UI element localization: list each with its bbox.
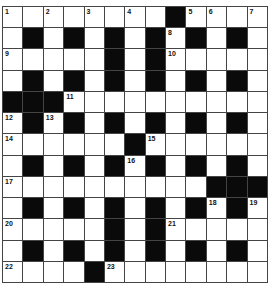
crossword-cell[interactable] — [105, 134, 124, 154]
crossword-cell[interactable] — [3, 198, 22, 218]
crossword-cell[interactable] — [125, 28, 144, 48]
crossword-cell[interactable] — [64, 219, 83, 239]
crossword-cell[interactable] — [207, 28, 226, 48]
crossword-cell[interactable] — [186, 219, 205, 239]
crossword-cell[interactable] — [44, 28, 63, 48]
crossword-cell[interactable]: 3 — [85, 7, 104, 27]
crossword-cell[interactable] — [248, 262, 267, 282]
crossword-cell[interactable] — [23, 262, 42, 282]
crossword-cell[interactable] — [105, 92, 124, 112]
crossword-cell[interactable]: 12 — [3, 113, 22, 133]
crossword-cell[interactable] — [105, 7, 124, 27]
crossword-cell[interactable]: 9 — [3, 49, 22, 69]
crossword-cell[interactable] — [207, 49, 226, 69]
crossword-cell[interactable] — [44, 71, 63, 91]
crossword-cell[interactable] — [44, 262, 63, 282]
crossword-cell[interactable] — [64, 49, 83, 69]
crossword-cell[interactable] — [125, 71, 144, 91]
crossword-cell[interactable] — [85, 198, 104, 218]
crossword-cell[interactable] — [248, 92, 267, 112]
crossword-cell[interactable] — [207, 262, 226, 282]
crossword-cell[interactable] — [166, 177, 185, 197]
crossword-cell[interactable] — [146, 177, 165, 197]
crossword-cell[interactable] — [186, 134, 205, 154]
crossword-cell[interactable]: 17 — [3, 177, 22, 197]
crossword-cell[interactable] — [23, 134, 42, 154]
crossword-cell[interactable] — [186, 262, 205, 282]
crossword-cell[interactable] — [166, 156, 185, 176]
crossword-cell[interactable] — [23, 177, 42, 197]
crossword-cell[interactable] — [44, 219, 63, 239]
crossword-cell[interactable] — [85, 134, 104, 154]
crossword-cell[interactable]: 7 — [248, 7, 267, 27]
crossword-cell[interactable] — [146, 92, 165, 112]
crossword-cell[interactable] — [44, 156, 63, 176]
crossword-cell[interactable] — [186, 177, 205, 197]
crossword-cell[interactable] — [125, 219, 144, 239]
crossword-cell[interactable] — [166, 198, 185, 218]
crossword-cell[interactable] — [248, 49, 267, 69]
crossword-cell[interactable]: 10 — [166, 49, 185, 69]
crossword-cell[interactable] — [85, 177, 104, 197]
crossword-cell[interactable]: 6 — [207, 7, 226, 27]
crossword-cell[interactable] — [227, 219, 246, 239]
crossword-cell[interactable] — [3, 156, 22, 176]
crossword-cell[interactable] — [44, 49, 63, 69]
crossword-cell[interactable]: 22 — [3, 262, 22, 282]
crossword-cell[interactable] — [85, 28, 104, 48]
crossword-cell[interactable] — [248, 219, 267, 239]
crossword-cell[interactable] — [166, 262, 185, 282]
crossword-cell[interactable] — [227, 92, 246, 112]
crossword-cell[interactable]: 23 — [105, 262, 124, 282]
crossword-cell[interactable] — [3, 28, 22, 48]
crossword-cell[interactable] — [166, 92, 185, 112]
crossword-cell[interactable] — [64, 7, 83, 27]
crossword-cell[interactable] — [146, 7, 165, 27]
crossword-cell[interactable]: 21 — [166, 219, 185, 239]
crossword-cell[interactable]: 8 — [166, 28, 185, 48]
crossword-cell[interactable] — [166, 71, 185, 91]
crossword-cell[interactable] — [44, 177, 63, 197]
crossword-cell[interactable] — [85, 92, 104, 112]
crossword-cell[interactable] — [186, 49, 205, 69]
crossword-cell[interactable] — [125, 177, 144, 197]
crossword-cell[interactable]: 2 — [44, 7, 63, 27]
crossword-cell[interactable] — [248, 241, 267, 261]
crossword-cell[interactable] — [166, 241, 185, 261]
crossword-cell[interactable] — [64, 262, 83, 282]
crossword-cell[interactable] — [85, 49, 104, 69]
crossword-cell[interactable] — [125, 92, 144, 112]
crossword-cell[interactable] — [227, 134, 246, 154]
crossword-cell[interactable]: 13 — [44, 113, 63, 133]
crossword-cell[interactable]: 4 — [125, 7, 144, 27]
crossword-cell[interactable] — [105, 177, 124, 197]
crossword-cell[interactable]: 20 — [3, 219, 22, 239]
crossword-cell[interactable] — [207, 156, 226, 176]
crossword-cell[interactable] — [207, 92, 226, 112]
crossword-cell[interactable] — [146, 262, 165, 282]
crossword-cell[interactable] — [85, 71, 104, 91]
crossword-cell[interactable] — [64, 134, 83, 154]
crossword-cell[interactable] — [125, 113, 144, 133]
crossword-cell[interactable] — [166, 113, 185, 133]
crossword-cell[interactable] — [3, 241, 22, 261]
crossword-cell[interactable] — [207, 241, 226, 261]
crossword-cell[interactable] — [248, 71, 267, 91]
crossword-cell[interactable] — [85, 219, 104, 239]
crossword-cell[interactable]: 18 — [207, 198, 226, 218]
crossword-cell[interactable]: 11 — [64, 92, 83, 112]
crossword-cell[interactable] — [207, 134, 226, 154]
crossword-cell[interactable] — [44, 198, 63, 218]
crossword-cell[interactable] — [186, 92, 205, 112]
crossword-cell[interactable] — [125, 262, 144, 282]
crossword-cell[interactable] — [207, 219, 226, 239]
crossword-cell[interactable]: 15 — [146, 134, 165, 154]
crossword-cell[interactable] — [3, 71, 22, 91]
crossword-cell[interactable] — [44, 241, 63, 261]
crossword-cell[interactable]: 14 — [3, 134, 22, 154]
crossword-cell[interactable]: 16 — [125, 156, 144, 176]
crossword-cell[interactable] — [125, 241, 144, 261]
crossword-cell[interactable] — [248, 134, 267, 154]
crossword-cell[interactable] — [23, 219, 42, 239]
crossword-cell[interactable] — [248, 113, 267, 133]
